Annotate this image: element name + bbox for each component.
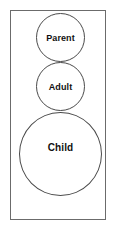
parent-node: Parent <box>36 13 85 62</box>
child-label: Child <box>48 142 74 153</box>
adult-label: Adult <box>49 82 73 92</box>
parent-label: Parent <box>46 33 75 43</box>
adult-node: Adult <box>36 62 85 111</box>
child-node: Child <box>19 112 102 196</box>
